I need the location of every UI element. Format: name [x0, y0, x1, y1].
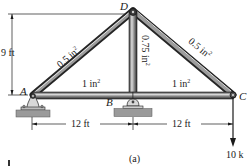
member-label-BC: 1 in2 [172, 79, 190, 89]
truss-diagram [0, 0, 252, 166]
dimension-span-right: 12 ft [172, 119, 191, 129]
arrowhead-up-icon [11, 14, 14, 19]
member-AB [33, 92, 133, 99]
arrow-down-icon [230, 138, 236, 147]
joint-label-A: A [20, 86, 27, 96]
member-label-BD: 0.75 in2 [140, 35, 150, 66]
joint-label-C: C [239, 91, 246, 101]
dimension-height: 9 ft [1, 48, 15, 58]
member-BC [133, 92, 233, 99]
arrowhead-down-icon [11, 90, 14, 95]
joint-label-D: D [120, 1, 128, 11]
load-label: 10 k [226, 150, 244, 160]
roller-support-B [114, 99, 152, 117]
member-BD [129, 11, 137, 95]
member-label-AB: 1 in2 [82, 79, 100, 89]
dimension-span-left: 12 ft [71, 119, 90, 129]
joint-label-B: B [106, 97, 113, 107]
figure-caption: (a) [129, 154, 140, 164]
